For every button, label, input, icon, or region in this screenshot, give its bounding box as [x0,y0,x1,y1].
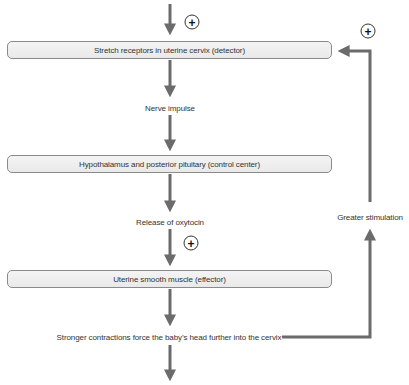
effector-label: Uterine smooth muscle (effector) [113,275,226,284]
feedback-upper-line [343,51,370,202]
nerve-impulse-label: Nerve impulse [145,104,195,113]
control-center-label: Hypothalamus and posterior pituitary (co… [79,160,260,169]
plus-icon: + [185,15,200,30]
stronger-contractions-label: Stronger contractions force the baby’s h… [57,333,282,342]
control-center-box: Hypothalamus and posterior pituitary (co… [7,155,332,173]
plus-icon: + [361,24,376,39]
greater-stimulation-label: Greater stimulation [337,213,403,222]
detector-label: Stretch receptors in uterine cervix (det… [94,46,245,55]
release-oxytocin-label: Release of oxytocin [136,218,204,227]
plus-icon: + [184,236,199,251]
detector-box: Stretch receptors in uterine cervix (det… [7,41,332,59]
effector-box: Uterine smooth muscle (effector) [7,270,332,288]
